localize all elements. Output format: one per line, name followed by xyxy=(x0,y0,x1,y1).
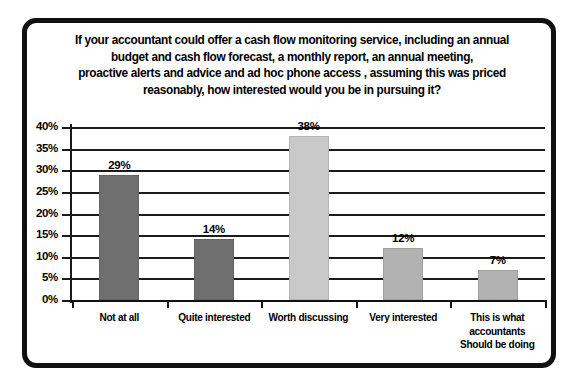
chart-screenshot: If your accountant could offer a cash fl… xyxy=(0,0,582,390)
bar[interactable] xyxy=(194,239,234,300)
x-axis-tick xyxy=(167,300,169,308)
chart-title-line-2: budget and cash flow forecast, a monthly… xyxy=(59,49,525,66)
bar-value-label: 29% xyxy=(89,159,149,171)
x-axis-category-label: Not at all xyxy=(74,311,164,325)
chart-title-line-3: proactive alerts and advice and ad hoc p… xyxy=(59,65,525,82)
y-axis-label: 30% xyxy=(18,163,58,175)
y-axis-label: 15% xyxy=(18,228,58,240)
bar-value-label: 14% xyxy=(184,223,244,235)
x-axis-category-label: Quite interested xyxy=(169,311,259,325)
category-label-line: Very interested xyxy=(358,311,448,325)
y-axis-label: 20% xyxy=(18,207,58,219)
bar[interactable] xyxy=(289,136,329,300)
x-axis-category-label: Worth discussing xyxy=(264,311,354,325)
chart-title-line-4: reasonably, how interested would you be … xyxy=(59,82,525,99)
y-axis-label: 5% xyxy=(18,271,58,283)
chart-title-line-1: If your accountant could offer a cash fl… xyxy=(59,32,525,49)
x-axis-tick xyxy=(261,300,263,308)
y-axis-label: 0% xyxy=(18,293,58,305)
x-axis-tick xyxy=(356,300,358,308)
category-label-line: accountants xyxy=(453,325,543,339)
y-axis-label: 35% xyxy=(18,142,58,154)
bar-value-label: 12% xyxy=(373,232,433,244)
category-label-line: Worth discussing xyxy=(264,311,354,325)
bar[interactable] xyxy=(99,175,139,300)
x-axis-category-label: Very interested xyxy=(358,311,448,325)
bar[interactable] xyxy=(383,248,423,300)
plot-area: 29%14%38%12%7% xyxy=(72,127,545,300)
y-axis-label: 25% xyxy=(18,185,58,197)
bar-value-label: 7% xyxy=(468,254,528,266)
bar-value-label: 38% xyxy=(279,120,339,132)
x-axis-tick xyxy=(545,300,547,308)
category-label-line: Quite interested xyxy=(169,311,259,325)
category-label-line: Not at all xyxy=(74,311,164,325)
y-axis-label: 40% xyxy=(18,120,58,132)
bar[interactable] xyxy=(478,270,518,300)
chart-title: If your accountant could offer a cash fl… xyxy=(59,32,525,98)
x-axis-line xyxy=(70,300,545,302)
x-axis-tick xyxy=(72,300,74,308)
x-axis-category-label: This is whataccountantsShould be doing xyxy=(453,311,543,352)
category-label-line: Should be doing xyxy=(453,338,543,352)
x-axis-tick xyxy=(450,300,452,308)
category-label-line: This is what xyxy=(453,311,543,325)
y-axis-label: 10% xyxy=(18,250,58,262)
